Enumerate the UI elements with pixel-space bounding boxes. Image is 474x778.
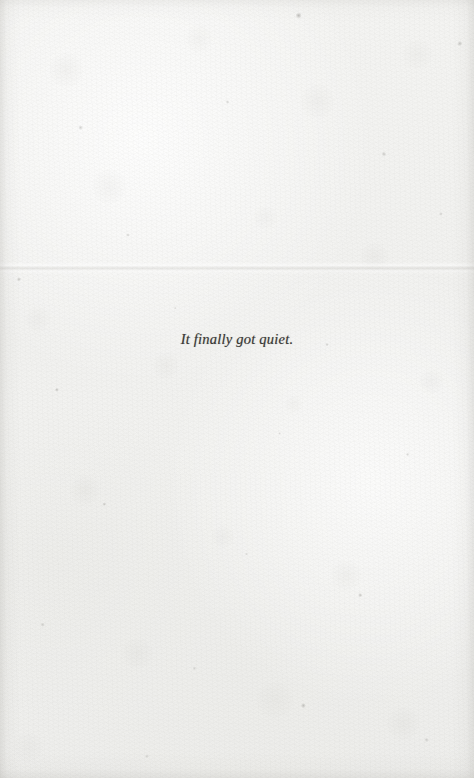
body-text-block: It finally got quiet. (0, 330, 474, 348)
body-text-line: It finally got quiet. (181, 330, 294, 348)
book-page: It finally got quiet. (0, 0, 474, 778)
page-edge-shading (0, 0, 474, 778)
